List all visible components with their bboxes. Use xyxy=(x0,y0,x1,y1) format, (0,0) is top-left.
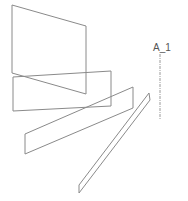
plane-4-strip xyxy=(79,93,150,193)
plane-1 xyxy=(12,5,86,94)
diagram-canvas: A_1 xyxy=(0,0,188,201)
axis-label-a1: A_1 xyxy=(153,42,171,53)
